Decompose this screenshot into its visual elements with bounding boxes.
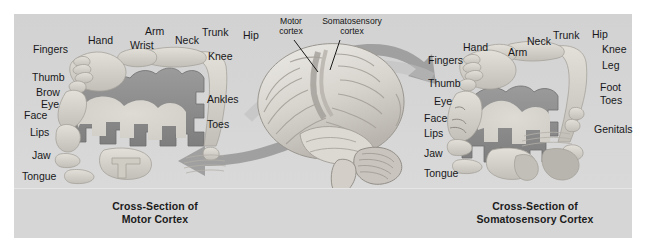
label-toes-left: Toes <box>207 119 229 130</box>
caption-somatosensory-cortex: Cross-Section of Somatosensory Cortex <box>430 200 640 226</box>
label-knee-left: Knee <box>208 51 233 62</box>
label-tongue-right: Tongue <box>424 168 458 179</box>
label-arm-left: Arm <box>145 26 164 37</box>
label-wrist-left: Wrist <box>130 40 154 51</box>
label-hand-left: Hand <box>88 35 113 46</box>
label-arm-right: Arm <box>508 47 527 58</box>
label-foot-right: Foot <box>600 82 621 93</box>
label-hip-right: Hip <box>592 29 608 40</box>
label-neck-left: Neck <box>175 35 199 46</box>
label-face-right: Face <box>424 113 447 124</box>
label-lips-left: Lips <box>30 127 49 138</box>
label-somatosensory-cortex-line1: Somatosensory <box>322 16 382 26</box>
label-ankles-left: Ankles <box>207 94 239 105</box>
label-hip-left: Hip <box>243 30 259 41</box>
label-neck-right: Neck <box>527 36 551 47</box>
label-thumb-left: Thumb <box>32 72 65 83</box>
label-leg-right: Leg <box>602 60 620 71</box>
label-motor-cortex: Motor cortex <box>269 17 313 36</box>
label-trunk-left: Trunk <box>202 27 228 38</box>
label-jaw-left: Jaw <box>32 150 51 161</box>
label-fingers-right: Fingers <box>428 55 463 66</box>
label-face-left: Face <box>24 110 47 121</box>
label-lips-right: Lips <box>424 128 443 139</box>
label-knee-right: Knee <box>602 44 627 55</box>
caption-somato-line1: Cross-Section of <box>492 200 578 212</box>
label-somatosensory-cortex-line2: cortex <box>340 26 363 36</box>
caption-motor-line1: Cross-Section of <box>112 200 198 212</box>
label-eye-right: Eye <box>434 96 452 107</box>
label-thumb-right: Thumb <box>428 78 461 89</box>
label-motor-cortex-line2: cortex <box>279 26 302 36</box>
label-hand-right: Hand <box>463 42 488 53</box>
label-tongue-left: Tongue <box>22 171 56 182</box>
label-toes-right: Toes <box>600 95 622 106</box>
label-genitals-right: Genitals <box>594 124 633 135</box>
caption-motor-line2: Motor Cortex <box>122 213 189 225</box>
label-trunk-right: Trunk <box>553 30 579 41</box>
label-somatosensory-cortex: Somatosensory cortex <box>312 17 392 36</box>
caption-motor-cortex: Cross-Section of Motor Cortex <box>60 200 250 226</box>
homunculus-figure: Fingers Hand Wrist Arm Neck Trunk Hip Kn… <box>0 0 646 252</box>
label-fingers-left: Fingers <box>33 44 68 55</box>
label-motor-cortex-line1: Motor <box>280 16 302 26</box>
label-jaw-right: Jaw <box>424 148 443 159</box>
label-brow-left: Brow <box>36 87 60 98</box>
caption-somato-line2: Somatosensory Cortex <box>477 213 594 225</box>
